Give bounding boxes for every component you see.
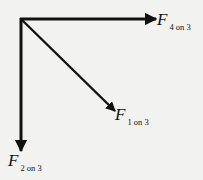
force-subscript: 4 on 3 <box>169 22 190 32</box>
vector-f1on3-arrow <box>22 20 115 111</box>
label-f4on3: F4 on 3 <box>157 10 191 30</box>
force-symbol: F <box>157 10 167 29</box>
label-f1on3: F1 on 3 <box>115 105 149 125</box>
force-symbol: F <box>8 151 18 170</box>
label-f2on3: F2 on 3 <box>8 151 42 171</box>
force-symbol: F <box>115 105 125 124</box>
force-subscript: 2 on 3 <box>20 163 41 173</box>
force-subscript: 1 on 3 <box>127 117 148 127</box>
